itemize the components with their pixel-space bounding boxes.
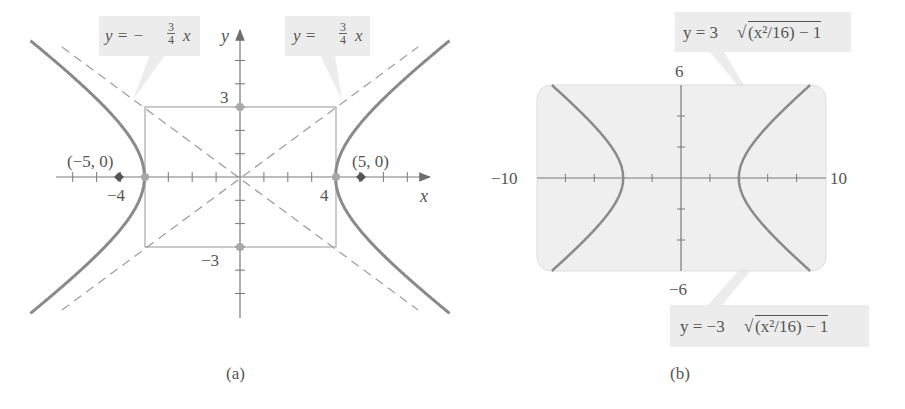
sqrt-icon: √: [744, 317, 753, 337]
fraction-denominator: 4: [340, 34, 346, 46]
tick-label-x-4: 4: [320, 186, 329, 205]
left-label-pointer: [133, 55, 165, 100]
lower-eq-radicand: (x²/16) − 1: [755, 315, 828, 337]
tick-label-y-3: 3: [220, 88, 229, 107]
upper-eq-radicand: (x²/16) − 1: [748, 21, 821, 43]
ymin-label: −6: [669, 280, 687, 299]
tick-label-y-neg3: −3: [201, 251, 219, 270]
y-axis-label: y: [219, 26, 229, 46]
xmax-label: 10: [830, 169, 847, 188]
caption-a: (a): [226, 364, 245, 384]
panel-a: x y −4 4 3 −3 (−5, 0) (5, 0): [31, 26, 450, 318]
sqrt-icon: √: [737, 23, 746, 43]
asymptote-left-var: x: [183, 26, 191, 46]
tick-label-x-neg4: −4: [107, 186, 126, 205]
upper-eq-lhs: y = 3: [683, 23, 718, 43]
asymptote-left-lhs: y = −: [105, 26, 144, 46]
panel-b: −10 10 6 −6: [491, 52, 847, 305]
focus-left: [114, 172, 124, 182]
x-axis-label: x: [419, 186, 428, 206]
vertex-left: [141, 173, 149, 181]
asymptote-right-fraction: 3 4: [339, 21, 347, 46]
co-vertex-bottom: [236, 243, 244, 251]
asymptote-right-var: x: [355, 26, 363, 46]
vertex-right: [332, 173, 340, 181]
lower-eq-lhs: y = −3: [680, 317, 725, 337]
ymax-label: 6: [675, 62, 684, 81]
asymptote-left-fraction: 3 4: [167, 21, 175, 46]
asymptote-right-label: y = 3 4 x: [285, 16, 370, 56]
fraction-denominator: 4: [168, 34, 174, 46]
focus-right: [356, 172, 366, 182]
figure-canvas: x y −4 4 3 −3 (−5, 0) (5, 0) −10 10 6 −6: [0, 0, 905, 409]
right-label-pointer: [320, 55, 342, 100]
co-vertex-top: [236, 103, 244, 111]
focus-left-label: (−5, 0): [67, 152, 113, 171]
upper-equation-label: y = 3 √ (x²/16) − 1: [675, 12, 851, 52]
caption-b: (b): [670, 364, 690, 384]
xmin-label: −10: [491, 169, 518, 188]
asymptote-right-lhs: y =: [293, 26, 316, 46]
lower-equation-label: y = −3 √ (x²/16) − 1: [670, 305, 869, 347]
asymptote-left-label: y = − 3 4 x: [99, 16, 200, 56]
focus-right-label: (5, 0): [352, 152, 389, 171]
